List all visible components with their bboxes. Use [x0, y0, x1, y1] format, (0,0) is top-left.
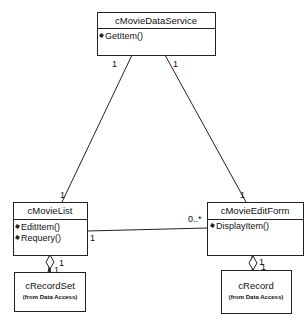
multiplicity-label: 1	[90, 233, 95, 243]
class-cmoviedataservice[interactable]: cMovieDataService GetItem()	[98, 13, 216, 56]
aggregation-diamond-form	[249, 256, 257, 270]
uml-class-diagram: cMovieDataService GetItem() cMovieList E…	[0, 0, 306, 321]
association-service-form	[165, 55, 246, 202]
operation-edititem: EditItem()	[21, 222, 60, 232]
class-crecordset[interactable]: cRecordSet (from Data Access)	[15, 273, 86, 312]
multiplicity-label: 1	[54, 265, 59, 275]
class-title: cMovieDataService	[115, 15, 197, 26]
association-list-form	[87, 228, 207, 231]
multiplicity-label: 1	[60, 190, 65, 200]
multiplicity-label: 0..*	[188, 214, 202, 224]
class-cmovieeditform[interactable]: cMovieEditForm DisplayItem()	[208, 203, 304, 256]
class-title: cMovieEditForm	[221, 205, 290, 216]
multiplicity-label: 1	[173, 59, 178, 69]
class-cmovielist[interactable]: cMovieList EditItem() Requery()	[14, 203, 88, 256]
class-title: cRecord	[238, 280, 273, 291]
operation-requery: Requery()	[21, 233, 61, 243]
package-label: (from Data Access)	[23, 294, 77, 300]
multiplicity-label: 1	[112, 59, 117, 69]
aggregation-diamond-list	[46, 255, 54, 269]
package-label: (from Data Access)	[229, 294, 283, 300]
multiplicity-label: 1	[240, 190, 245, 200]
multiplicity-label: 1	[261, 262, 266, 272]
multiplicity-label: 1	[59, 258, 64, 268]
operation-displayitem: DisplayItem()	[216, 221, 269, 231]
class-title: cRecordSet	[25, 280, 75, 291]
class-title: cMovieList	[28, 205, 73, 216]
class-crecord[interactable]: cRecord (from Data Access)	[222, 271, 292, 314]
association-service-list	[62, 55, 132, 202]
operation-getitem: GetItem()	[105, 31, 143, 41]
